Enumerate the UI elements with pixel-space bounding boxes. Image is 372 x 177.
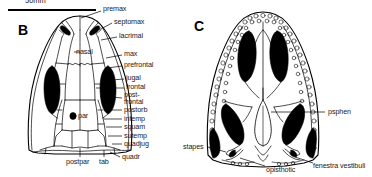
label-nasal: nasal: [76, 48, 93, 56]
label-jugal: jugal: [126, 74, 141, 82]
leader-premax: [81, 11, 101, 18]
label-par: par: [78, 112, 88, 120]
label-premax: premax: [103, 5, 126, 13]
label-squam: squam: [124, 123, 145, 131]
label-lacrimal: lacrimal: [119, 32, 143, 40]
orbit-right: [100, 66, 116, 114]
label-postpar: postpar: [66, 158, 89, 166]
label-quadjug: quadjug: [124, 140, 149, 148]
orbit-left: [44, 66, 60, 114]
panel-b-skull-dorsal: [28, 16, 132, 154]
figure-skull-drawings: 50mm B C: [0, 0, 372, 177]
label-postorb: postorb: [124, 106, 147, 114]
label-fenestra-vestibuli: fenestra vestibuli: [313, 162, 365, 170]
label-psphen: psphen: [328, 108, 351, 116]
panel-c-skull-palatal: [207, 12, 319, 167]
pineal-foramen: [70, 112, 76, 119]
label-prefrontal: prefrontal: [124, 61, 153, 69]
label-septomax: septomax: [114, 18, 144, 26]
label-max: max: [124, 50, 137, 58]
label-stapes: stapes: [183, 143, 204, 151]
label-tab: tab: [99, 158, 109, 166]
label-opisthotic: opisthotic: [266, 166, 295, 174]
label-quadr: quadr: [122, 153, 140, 161]
